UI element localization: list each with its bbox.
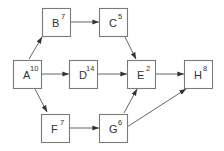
edge-g-to-e: [124, 89, 137, 113]
node-f: F7: [42, 115, 70, 143]
node-e: E2: [128, 61, 156, 89]
node-label: G: [109, 123, 118, 135]
edge-a-to-f: [35, 89, 47, 112]
activity-network-diagram: A10B7C5D14E2F7G6H8: [0, 0, 224, 151]
nodes-layer: A10B7C5D14E2F7G6H8: [14, 9, 213, 143]
node-label: H: [194, 69, 202, 81]
node-label: F: [51, 123, 58, 135]
node-duration: 8: [203, 64, 207, 73]
node-duration: 7: [61, 12, 65, 21]
node-h: H8: [185, 61, 213, 89]
node-label: B: [52, 17, 59, 29]
node-duration: 7: [60, 118, 64, 127]
edge-a-to-b: [29, 37, 42, 59]
node-c: C5: [100, 9, 128, 37]
node-g: G6: [100, 115, 128, 143]
edge-c-to-e: [125, 37, 136, 59]
node-duration: 6: [118, 118, 122, 127]
node-duration: 14: [86, 64, 94, 73]
edge-g-to-h: [127, 89, 186, 127]
node-duration: 5: [118, 12, 122, 21]
node-a: A10: [14, 61, 42, 89]
node-label: C: [109, 17, 117, 29]
node-duration: 10: [30, 64, 38, 73]
node-d: D14: [70, 61, 98, 89]
edges-layer: [29, 22, 186, 128]
node-label: E: [137, 69, 144, 81]
node-b: B7: [43, 9, 71, 37]
node-duration: 2: [146, 64, 150, 73]
